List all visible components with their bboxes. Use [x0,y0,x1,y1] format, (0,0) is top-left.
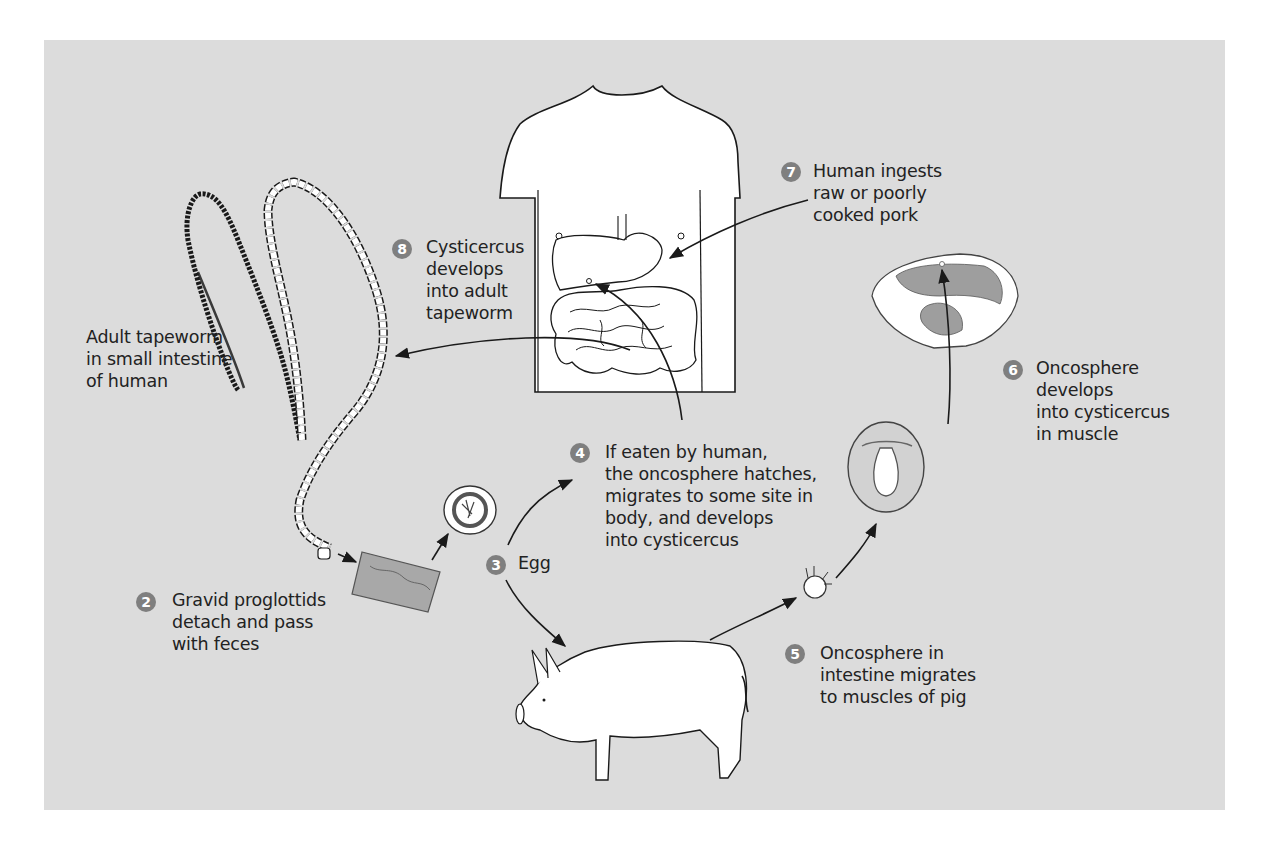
arrow-pig-to-oncosphere [710,598,796,640]
pork-meat-icon [872,254,1018,348]
oncosphere-icon [804,566,832,598]
arrow-egg-to-human [508,480,572,545]
step-badge-5: 5 [785,644,805,664]
label-adult-tapeworm: Adult tapeworm in small intestine of hum… [86,326,232,392]
pig-icon [516,641,748,780]
step-badge-2: 2 [136,592,156,612]
label-step-2: Gravid proglottids detach and pass with … [172,589,326,655]
cysticercus-icon [848,422,924,512]
arrow-adult-to-proglottid [338,554,356,562]
arrow-egg-to-pig [506,580,565,646]
arrow-proglottid-to-egg [432,534,448,560]
step-badge-6: 6 [1003,360,1023,380]
label-step-3: Egg [518,552,551,574]
label-step-7: Human ingests raw or poorly cooked pork [813,160,942,226]
proglottid-icon [352,552,440,612]
label-step-4: If eaten by human, the oncosphere hatche… [605,441,817,551]
step-badge-7: 7 [781,162,801,182]
arrow-oncosphere-to-cysticercus [836,524,876,578]
label-step-6: Oncosphere develops into cysticercus in … [1036,357,1170,445]
label-step-8: Cysticercus develops into adult tapeworm [426,236,524,324]
label-step-5: Oncosphere in intestine migrates to musc… [820,642,976,708]
step-badge-3: 3 [486,555,506,575]
step-badge-8: 8 [392,239,412,259]
egg-icon [444,486,496,534]
step-badge-4: 4 [570,443,590,463]
